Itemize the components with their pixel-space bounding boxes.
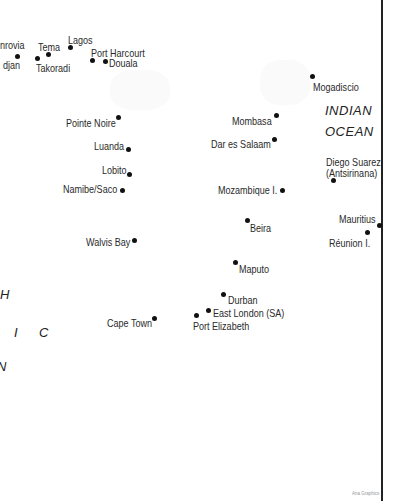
label-monrovia: nrovia: [0, 39, 25, 51]
label-beira: Beira: [250, 222, 271, 234]
ocean-fragment-h: H: [0, 287, 9, 302]
port-dot-luanda[interactable]: [126, 147, 131, 152]
port-dot-maputo[interactable]: [233, 260, 238, 265]
label-mombasa: Mombasa: [232, 115, 272, 127]
label-lagos: Lagos: [68, 34, 93, 46]
label-pointe-noire: Pointe Noire: [66, 117, 116, 129]
port-dot-port-elizabeth[interactable]: [194, 313, 199, 318]
land-shading: [260, 60, 310, 105]
port-dot-mozambique-island[interactable]: [280, 188, 285, 193]
map-frame-border: [381, 0, 383, 501]
port-dot-mombasa[interactable]: [274, 113, 279, 118]
ocean-fragment-i: I: [14, 325, 18, 340]
port-dot-lagos[interactable]: [68, 45, 73, 50]
label-maputo: Maputo: [239, 263, 269, 275]
port-dot-east-london[interactable]: [206, 308, 211, 313]
port-dot-pointe-noire[interactable]: [116, 115, 121, 120]
label-lobito: Lobito: [102, 164, 127, 176]
port-dot-port-harcourt[interactable]: [90, 58, 95, 63]
port-dot-dar-es-salaam[interactable]: [272, 137, 277, 142]
port-dot-lobito[interactable]: [127, 172, 132, 177]
port-dot-mauritius[interactable]: [377, 223, 382, 228]
map-credit: Ana Graphics: [352, 491, 379, 496]
label-dar-es-salaam: Dar es Salaam: [211, 138, 271, 150]
port-dot-mogadiscio[interactable]: [310, 74, 315, 79]
port-dot-douala[interactable]: [103, 59, 108, 64]
port-dot-reunion[interactable]: [365, 230, 370, 235]
label-mozambique-island: Mozambique I.: [218, 184, 277, 196]
label-abidjan: djan: [3, 59, 20, 71]
label-durban: Durban: [228, 294, 258, 306]
port-dot-takoradi[interactable]: [35, 56, 40, 61]
ocean-label-indian: INDIAN: [325, 103, 372, 118]
port-dot-durban[interactable]: [221, 292, 226, 297]
port-dot-tema[interactable]: [46, 52, 51, 57]
label-east-london: East London (SA): [213, 307, 284, 319]
label-mauritius: Mauritius: [339, 213, 376, 225]
label-walvis-bay: Walvis Bay: [86, 236, 130, 248]
label-cape-town: Cape Town: [107, 317, 152, 329]
port-dot-cape-town[interactable]: [152, 316, 157, 321]
land-shading: [110, 70, 170, 110]
ocean-fragment-c: C: [39, 325, 48, 340]
port-dot-walvis-bay[interactable]: [132, 238, 137, 243]
ocean-label-ocean: OCEAN: [325, 124, 374, 139]
label-luanda: Luanda: [94, 140, 124, 152]
port-dot-namibe-saco[interactable]: [120, 188, 125, 193]
label-douala: Douala: [109, 57, 138, 69]
label-namibe-saco: Namibe/Saco: [63, 183, 117, 195]
port-dot-diego-suarez[interactable]: [331, 178, 336, 183]
label-mogadiscio: Mogadiscio: [313, 81, 359, 93]
africa-ports-map: nrovia djan Tema Takoradi Lagos Port Har…: [0, 0, 403, 501]
label-port-elizabeth: Port Elizabeth: [193, 320, 249, 332]
label-takoradi: Takoradi: [36, 62, 70, 74]
ocean-fragment-n: N: [0, 359, 6, 374]
label-reunion: Réunion I.: [329, 237, 370, 249]
